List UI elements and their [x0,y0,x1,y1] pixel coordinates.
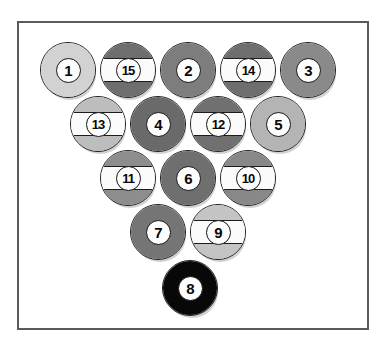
billiard-ball-4[interactable]: 4 [130,96,186,152]
ball-number-label: 5 [274,116,282,131]
ball-number-disc: 13 [86,112,111,137]
billiard-ball-10[interactable]: 10 [220,150,276,206]
ball-number-disc: 9 [206,220,231,245]
billiard-ball-15[interactable]: 15 [100,42,156,98]
billiard-ball-11[interactable]: 11 [100,150,156,206]
ball-number-disc: 15 [116,58,141,83]
billiard-ball-8[interactable]: 8 [162,260,218,316]
ball-number-label: 8 [186,280,194,295]
ball-number-disc: 8 [178,276,203,301]
billiard-ball-14[interactable]: 14 [220,42,276,98]
billiard-ball-9[interactable]: 9 [190,204,246,260]
billiard-ball-7[interactable]: 7 [130,204,186,260]
billiard-ball-12[interactable]: 12 [190,96,246,152]
billiard-ball-3[interactable]: 3 [280,42,336,98]
ball-number-label: 3 [304,62,312,77]
ball-number-label: 2 [184,62,192,77]
ball-number-disc: 14 [236,58,261,83]
billiard-ball-5[interactable]: 5 [250,96,306,152]
billiard-ball-6[interactable]: 6 [160,150,216,206]
ball-number-label: 7 [154,224,162,239]
ball-number-disc: 6 [176,166,201,191]
ball-number-label: 11 [122,171,134,184]
ball-number-disc: 11 [116,166,141,191]
ball-number-disc: 12 [206,112,231,137]
ball-number-disc: 10 [236,166,261,191]
ball-number-label: 14 [242,63,254,76]
ball-number-disc: 4 [146,112,171,137]
billiard-rack-figure: 115214313412511610798 [0,0,386,345]
ball-number-label: 6 [184,170,192,185]
billiard-ball-1[interactable]: 1 [40,42,96,98]
ball-number-label: 13 [92,117,104,130]
billiard-ball-2[interactable]: 2 [160,42,216,98]
ball-number-label: 15 [122,63,134,76]
ball-number-label: 10 [242,171,254,184]
ball-number-disc: 3 [296,58,321,83]
ball-number-disc: 1 [56,58,81,83]
billiard-ball-13[interactable]: 13 [70,96,126,152]
ball-number-disc: 5 [266,112,291,137]
ball-number-label: 9 [214,224,222,239]
ball-number-label: 12 [212,117,224,130]
ball-number-disc: 7 [146,220,171,245]
ball-number-label: 1 [64,62,72,77]
ball-number-label: 4 [154,116,162,131]
ball-number-disc: 2 [176,58,201,83]
